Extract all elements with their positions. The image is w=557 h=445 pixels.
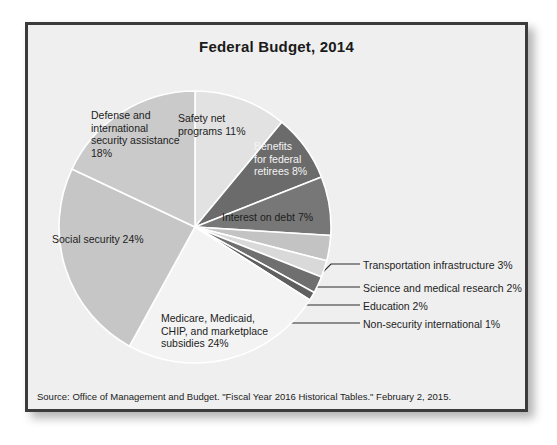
pie-slice-label: Safety net programs 11% [178, 112, 246, 137]
pie-slice-label: Defense and international security assis… [91, 109, 180, 159]
chart-figure-frame: Federal Budget, 2014 Safety net programs… [25, 22, 528, 412]
pie-chart-area: Safety net programs 11%Benefits for fede… [28, 25, 531, 415]
pie-slice-label: Interest on debt 7% [222, 211, 313, 224]
pie-slice-label: Medicare, Medicaid, CHIP, and marketplac… [161, 312, 268, 350]
pie-callout-label: Transportation infrastructure 3% [363, 259, 513, 272]
pie-callout-label: Education 2% [363, 300, 428, 313]
pie-slice-label: Benefits for federal retirees 8% [254, 140, 307, 178]
source-note: Source: Office of Management and Budget.… [37, 391, 451, 402]
pie-slice-label: Social security 24% [52, 233, 144, 246]
pie-callout-label: Non-security international 1% [363, 318, 500, 331]
pie-callout-label: Science and medical research 2% [363, 282, 522, 295]
